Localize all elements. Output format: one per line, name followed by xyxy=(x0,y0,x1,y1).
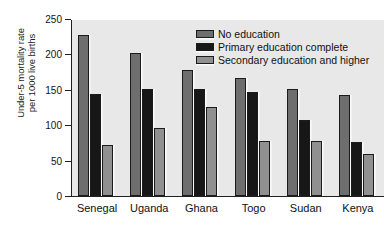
y-axis-tick: 0 xyxy=(0,191,71,203)
y-axis-ticks: 050100150200250 xyxy=(0,20,71,197)
x-axis-label: Senegal xyxy=(71,202,123,214)
y-axis-tick-label: 200 xyxy=(45,49,62,61)
plot-area: No educationPrimary education completeSe… xyxy=(71,20,384,197)
bar xyxy=(142,89,153,196)
bar xyxy=(194,89,205,196)
bar xyxy=(130,53,141,196)
bar xyxy=(90,94,101,196)
y-axis-tick: 100 xyxy=(0,120,71,132)
x-axis-labels: SenegalUgandaGhanaTogoSudanKenya xyxy=(71,202,384,222)
legend-swatch xyxy=(196,43,214,51)
bar xyxy=(182,70,193,196)
legend-label: Secondary education and higher xyxy=(218,54,369,66)
legend-item: Primary education complete xyxy=(196,41,384,53)
x-axis-label: Kenya xyxy=(332,202,384,214)
bar xyxy=(311,141,322,196)
y-axis-tick-label: 100 xyxy=(45,120,62,132)
y-axis-tick: 200 xyxy=(0,49,71,61)
chart-legend: No educationPrimary education completeSe… xyxy=(196,28,384,67)
y-axis-tick: 250 xyxy=(0,14,71,26)
legend-label: No education xyxy=(218,28,280,40)
chart-container: Under-5 mortality rate per 1000 live bir… xyxy=(0,0,384,232)
x-axis-label: Togo xyxy=(228,202,280,214)
y-axis-tick-label: 0 xyxy=(56,191,62,203)
bar-group xyxy=(78,20,113,196)
bar xyxy=(247,92,258,196)
y-axis-tick: 150 xyxy=(0,85,71,97)
legend-label: Primary education complete xyxy=(218,41,348,53)
bar xyxy=(351,142,362,196)
legend-item: No education xyxy=(196,28,384,40)
x-axis-label: Sudan xyxy=(280,202,332,214)
bar xyxy=(154,128,165,196)
bar xyxy=(299,120,310,196)
bar xyxy=(259,141,270,196)
y-axis-tick: 50 xyxy=(0,156,71,168)
legend-swatch xyxy=(196,30,214,38)
bar xyxy=(363,154,374,196)
y-axis-tick-label: 150 xyxy=(45,85,62,97)
legend-item: Secondary education and higher xyxy=(196,54,384,66)
y-axis-tick-label: 50 xyxy=(51,156,62,168)
bar xyxy=(339,95,350,196)
x-axis-label: Ghana xyxy=(175,202,227,214)
bar xyxy=(102,145,113,196)
y-axis-tick-label: 250 xyxy=(45,14,62,26)
legend-swatch xyxy=(196,56,214,64)
bar-group xyxy=(130,20,165,196)
bar xyxy=(78,35,89,196)
bar xyxy=(287,89,298,196)
x-axis-label: Uganda xyxy=(123,202,175,214)
bar xyxy=(206,107,217,196)
bar xyxy=(235,78,246,196)
